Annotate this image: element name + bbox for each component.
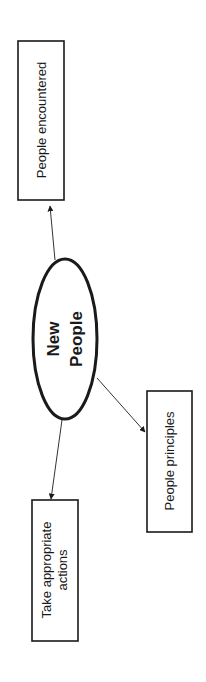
edge-to-take-appropriate-actions — [51, 420, 62, 499]
node-label: People encountered — [34, 62, 49, 178]
node-take-appropriate-actions: Take appropriate actions — [32, 500, 78, 641]
node-label-line-1: Take appropriate — [39, 522, 54, 619]
mind-map-diagram: New People People encountered People pri… — [0, 0, 206, 682]
edge-to-people-principles — [97, 378, 145, 432]
edge-to-people-encountered — [50, 206, 55, 260]
node-label-line-2: actions — [55, 549, 70, 591]
node-people-principles: People principles — [147, 391, 192, 532]
node-label: People principles — [162, 411, 177, 511]
center-label-line-1: New — [44, 321, 63, 357]
center-label-line-2: People — [67, 311, 86, 367]
node-people-encountered: People encountered — [18, 41, 64, 200]
center-node: New People — [33, 259, 97, 419]
